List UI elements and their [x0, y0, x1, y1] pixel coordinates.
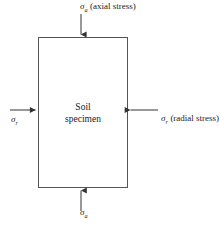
- axial-stress-bottom-label: σa: [80, 207, 88, 220]
- stress-diagram-figure: Soil specimen σa(axial stress) σr(radial…: [0, 0, 219, 225]
- specimen-label: Soil specimen: [38, 101, 128, 125]
- specimen-label-line2: specimen: [38, 113, 128, 125]
- sigma-subscript-r: r: [15, 119, 17, 126]
- radial-stress-description: (radial stress): [170, 113, 219, 123]
- radial-stress-right-label: σr(radial stress): [161, 113, 219, 126]
- axial-stress-description: (axial stress): [90, 1, 136, 11]
- sigma-subscript-a: a: [84, 6, 87, 13]
- axial-stress-top-label: σa(axial stress): [80, 1, 136, 14]
- specimen-label-line1: Soil: [38, 101, 128, 113]
- sigma-subscript-a: a: [84, 212, 87, 219]
- radial-stress-left-label: σr: [11, 114, 18, 127]
- sigma-subscript-r: r: [165, 118, 167, 125]
